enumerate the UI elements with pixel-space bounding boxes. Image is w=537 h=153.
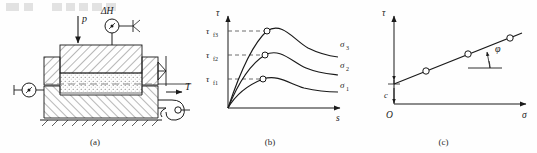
chart-b-y-axis-label: τ xyxy=(216,8,220,18)
ytick-label-3: τ xyxy=(206,26,210,36)
cohesion-label: c xyxy=(384,90,388,100)
panel-b-stress-displacement: τ s τ f3 τ f2 τ f1 σ 3 σ 2 xyxy=(190,0,350,153)
data-point-1 xyxy=(423,68,429,74)
caption-b: (b) xyxy=(190,137,350,147)
chart-b-axes xyxy=(228,16,340,108)
upper-box-right-wall xyxy=(142,57,158,85)
reaction-wedge xyxy=(158,56,166,86)
curve-sub-sigma1: 1 xyxy=(346,86,349,92)
apparatus-drawing: p ΔH T xyxy=(0,0,190,140)
upper-loading-cap xyxy=(60,45,142,73)
data-point-3 xyxy=(507,35,513,41)
chart-c-axes xyxy=(394,16,526,104)
chart-c-origin-label: O xyxy=(386,110,393,120)
friction-angle-label: φ xyxy=(495,43,501,54)
curve-sigma1 xyxy=(228,78,338,108)
chart-b-x-axis-label: s xyxy=(336,113,340,123)
panel-c-failure-envelope: τ σ O c φ (c) xyxy=(350,0,537,153)
curve-label-sigma2: σ xyxy=(340,60,345,70)
ytick-sub-1: f1 xyxy=(213,80,218,86)
curve-sub-sigma2: 2 xyxy=(346,66,349,72)
loading-yoke-hook xyxy=(158,100,190,120)
friction-angle-construction xyxy=(468,52,502,68)
curve-sub-sigma3: 3 xyxy=(346,45,349,51)
chart-shear-curves: τ s τ f3 τ f2 τ f1 σ 3 σ 2 xyxy=(190,0,350,140)
chart-b-curve-labels: σ 3 σ 2 σ 1 xyxy=(340,39,349,92)
ytick-sub-2: f2 xyxy=(213,56,218,62)
figure-container: p ΔH T (a) xyxy=(0,0,537,153)
failure-envelope-line xyxy=(394,33,522,84)
soil-specimen xyxy=(60,73,142,93)
data-point-2 xyxy=(465,51,471,57)
upper-box-left-wall xyxy=(44,57,60,85)
ytick-label-1: τ xyxy=(206,74,210,84)
ytick-sub-3: f3 xyxy=(213,32,218,38)
chart-c-y-axis-label: τ xyxy=(382,8,386,18)
caption-c: (c) xyxy=(350,137,537,147)
curve-label-sigma1: σ xyxy=(340,80,345,90)
chart-failure-envelope: τ σ O c φ xyxy=(350,0,537,140)
base-support-hatching xyxy=(40,120,162,126)
caption-a: (a) xyxy=(0,137,190,147)
vertical-dial-gauge xyxy=(105,19,140,45)
chart-c-x-axis-label: σ xyxy=(522,110,527,120)
panel-a-apparatus: p ΔH T (a) xyxy=(0,0,190,153)
cohesion-indicator xyxy=(388,80,400,103)
chart-b-curves xyxy=(228,28,338,108)
curve-sigma3 xyxy=(228,28,338,108)
ytick-label-2: τ xyxy=(206,50,210,60)
curve-label-sigma3: σ xyxy=(340,39,345,49)
vertical-dial-label: ΔH xyxy=(100,6,115,16)
chart-b-ytick-labels: τ f3 τ f2 τ f1 xyxy=(206,26,218,86)
normal-load-label: p xyxy=(81,13,87,24)
horizontal-dial-gauge xyxy=(14,83,44,97)
